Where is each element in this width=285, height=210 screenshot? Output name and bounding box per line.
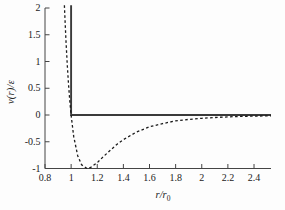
x-tick-label: 1.6 (143, 172, 156, 183)
y-tick-label: 1.5 (28, 29, 41, 40)
hard-sphere-curve (71, 5, 271, 115)
x-tick-label: 1.4 (117, 172, 130, 183)
x-axis-label: r/r0 (156, 189, 171, 203)
potential-energy-figure: 21.510.50-0.5-10.811.21.41.61.822.22.4 v… (0, 0, 285, 210)
x-tick-label: 1 (69, 172, 74, 183)
y-axis-label: v(r)/ε (5, 80, 16, 104)
x-axis-label-subscript: 0 (167, 194, 171, 203)
y-tick-label: 0.5 (28, 82, 41, 93)
y-tick-label: -0.5 (25, 136, 41, 147)
x-tick-label: 2 (199, 172, 204, 183)
x-tick-label: 1.2 (91, 172, 104, 183)
x-tick-label: 2.4 (248, 172, 261, 183)
y-tick-label: 0 (36, 109, 41, 120)
axis-frame (45, 8, 271, 169)
x-axis-label-text: r/r (156, 189, 167, 200)
y-tick-label: 1 (36, 56, 41, 67)
potential-chart: 21.510.50-0.5-10.811.21.41.61.822.22.4 (0, 0, 285, 210)
x-tick-label: 1.8 (169, 172, 182, 183)
lennard-jones-curve (64, 5, 271, 168)
x-tick-label: 2.2 (222, 172, 235, 183)
y-tick-label: 2 (36, 2, 41, 13)
x-tick-label: 0.8 (39, 172, 52, 183)
